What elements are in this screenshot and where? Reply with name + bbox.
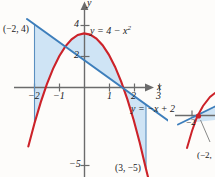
x-tick-label-2: 2 (131, 90, 136, 101)
y-axis-label: y (87, 0, 91, 8)
x-tick-label--2: −2 (28, 90, 40, 101)
inset-point-label: (−2, (197, 150, 212, 160)
x-tick-label--1: −1 (53, 90, 65, 101)
inset-leader-line (201, 120, 211, 142)
y-tick-label-4: 4 (74, 18, 79, 29)
y-tick-label-2: 2 (74, 49, 79, 60)
x-tick-label-1: 1 (107, 90, 112, 101)
point-label-lower-right: (3, −5) (115, 163, 141, 173)
parabola-equation-exponent: 2 (127, 24, 131, 32)
point-label-upper-left: (−2, 4) (3, 24, 29, 34)
inset-x-tick-label: −2 (186, 117, 196, 127)
shaded-region-accurate (35, 25, 147, 169)
parabola-equation-base: y = 4 − x (90, 25, 127, 36)
x-axis-arrowhead (145, 84, 154, 92)
y-tick-label--5: −5 (69, 158, 81, 169)
inset-intersection-point (196, 113, 201, 118)
x-axis-label: x (157, 81, 161, 92)
parabola-equation-label: y = 4 − x2 (90, 24, 131, 36)
line-equation-label: y = −x + 2 (131, 103, 175, 114)
